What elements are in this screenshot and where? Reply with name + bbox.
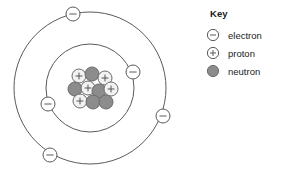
legend-label-neutron: neutron [228, 66, 260, 77]
neutron-particle [86, 95, 100, 109]
legend-label-proton: proton [228, 48, 255, 59]
atom-diagram-page: Key electron proton neutron [0, 0, 298, 176]
legend-row-neutron: neutron [205, 62, 295, 80]
atom-diagram [0, 0, 190, 176]
legend-label-electron: electron [228, 30, 262, 41]
neutron-particle [99, 95, 113, 109]
neutron-particle [85, 67, 99, 81]
legend-row-electron: electron [205, 26, 295, 44]
legend-row-proton: proton [205, 44, 295, 62]
electron-icon [205, 27, 221, 43]
legend-title: Key [210, 8, 295, 19]
neutron-icon [205, 63, 221, 79]
legend-key: Key electron proton neutron [205, 8, 295, 80]
proton-icon [205, 45, 221, 61]
nucleus [68, 67, 118, 109]
